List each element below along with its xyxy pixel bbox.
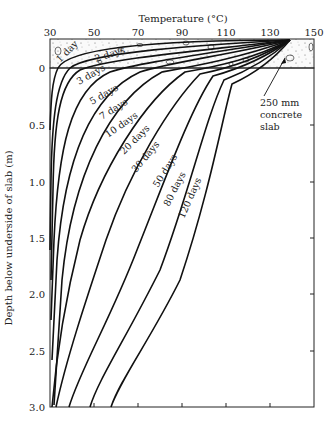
y-tick-0-5: 0.5 xyxy=(29,120,45,131)
curve-120-days xyxy=(111,40,290,407)
annotation-line-1: 250 mm xyxy=(260,97,299,108)
x-tick-labels: 30 50 70 90 110 130 150 xyxy=(44,27,324,38)
y-tick-2-0: 2.0 xyxy=(29,289,45,300)
curve-80-days xyxy=(90,40,290,407)
y-axis-title: Depth below underside of slab (m) xyxy=(3,150,14,325)
x-tick-150: 150 xyxy=(304,27,323,38)
annotation-line-3: slab xyxy=(260,121,280,132)
y-tick-1-5: 1.5 xyxy=(29,233,45,244)
y-tick-1-0: 1.0 xyxy=(29,177,45,188)
x-tick-70: 70 xyxy=(132,27,145,38)
x-tick-130: 130 xyxy=(260,27,279,38)
x-tick-50: 50 xyxy=(88,27,101,38)
curve-20-days xyxy=(52,40,290,407)
x-axis-title: Temperature (°C) xyxy=(138,13,227,24)
y-tick-0: 0 xyxy=(39,63,45,74)
annotation-line-2: concrete xyxy=(260,109,302,120)
temperature-depth-chart: Temperature (°C) 30 50 70 90 110 130 150 xyxy=(0,0,335,425)
y-tick-2-5: 2.5 xyxy=(29,346,45,357)
y-ticks xyxy=(94,125,314,407)
x-tick-110: 110 xyxy=(216,27,235,38)
x-tick-30: 30 xyxy=(44,27,57,38)
isochrone-curves xyxy=(50,40,290,407)
y-tick-labels: 0 0.5 1.0 1.5 2.0 2.5 3.0 xyxy=(29,63,45,413)
curve-10-days xyxy=(54,40,290,405)
x-tick-90: 90 xyxy=(176,27,189,38)
y-tick-3-0: 3.0 xyxy=(29,402,45,413)
